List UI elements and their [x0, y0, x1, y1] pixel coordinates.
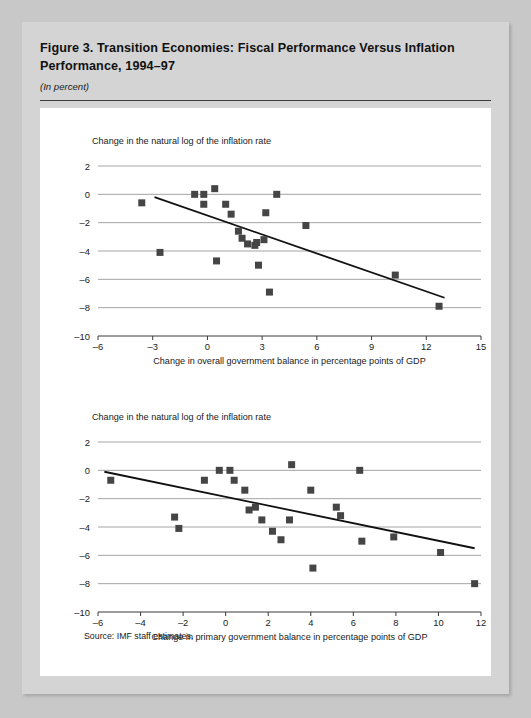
- chart-bottom-svg: Change in the natural log of the inflati…: [40, 404, 491, 664]
- data-point-marker: [216, 467, 223, 474]
- x-tick-label: –4: [135, 617, 145, 628]
- data-point-marker: [277, 536, 284, 543]
- data-point-marker: [244, 240, 251, 247]
- y-tick-label: –2: [80, 217, 90, 228]
- data-point-marker: [200, 201, 207, 208]
- data-point-marker: [286, 516, 293, 523]
- plot-panel: Change in the natural log of the inflati…: [40, 108, 491, 676]
- y-tick-label: 0: [85, 189, 90, 200]
- trendline: [155, 197, 445, 298]
- x-tick-label: 2: [266, 617, 271, 628]
- data-point-marker: [307, 487, 314, 494]
- data-point-marker: [213, 257, 220, 264]
- data-point-marker: [258, 516, 265, 523]
- data-point-marker: [356, 467, 363, 474]
- y-tick-label: –6: [80, 550, 90, 561]
- figure-card: Figure 3. Transition Economies: Fiscal P…: [22, 22, 509, 694]
- data-point-marker: [262, 209, 269, 216]
- data-point-marker: [358, 538, 365, 545]
- data-point-marker: [246, 507, 253, 514]
- y-tick-label: –2: [80, 493, 90, 504]
- x-tick-label: 4: [308, 617, 313, 628]
- data-point-marker: [235, 228, 242, 235]
- figure-inner: Figure 3. Transition Economies: Fiscal P…: [32, 32, 499, 684]
- data-point-marker: [269, 528, 276, 535]
- chart-top-overall-balance: Change in the natural log of the inflati…: [40, 128, 491, 388]
- figure-header: Figure 3. Transition Economies: Fiscal P…: [40, 40, 491, 92]
- y-axis-label: Change in the natural log of the inflati…: [92, 412, 271, 422]
- data-point-marker: [211, 185, 218, 192]
- x-tick-label: 10: [433, 617, 443, 628]
- y-tick-label: –8: [80, 302, 90, 313]
- data-point-marker: [266, 289, 273, 296]
- x-axis-label: Change in overall government balance in …: [153, 356, 425, 366]
- data-point-marker: [241, 487, 248, 494]
- x-tick-label: 3: [260, 341, 265, 352]
- chart-bottom-primary-balance: Change in the natural log of the inflati…: [40, 404, 491, 664]
- y-tick-label: –10: [74, 607, 90, 618]
- y-tick-label: –8: [80, 578, 90, 589]
- x-tick-label: 9: [369, 341, 374, 352]
- x-tick-label: –3: [147, 341, 157, 352]
- data-point-marker: [390, 533, 397, 540]
- y-axis-label: Change in the natural log of the inflati…: [92, 136, 271, 146]
- figure-title: Figure 3. Transition Economies: Fiscal P…: [40, 40, 491, 76]
- data-point-marker: [222, 201, 229, 208]
- data-point-marker: [288, 461, 295, 468]
- data-point-marker: [333, 504, 340, 511]
- y-tick-label: –4: [80, 522, 90, 533]
- data-point-marker: [253, 239, 260, 246]
- data-point-marker: [201, 477, 208, 484]
- figure-subtitle: (In percent): [40, 81, 491, 92]
- x-tick-label: 12: [476, 617, 486, 628]
- data-point-marker: [191, 191, 198, 198]
- data-point-marker: [226, 467, 233, 474]
- x-tick-label: –6: [93, 617, 103, 628]
- x-tick-label: 8: [393, 617, 398, 628]
- y-tick-label: –6: [80, 274, 90, 285]
- x-tick-label: –6: [93, 341, 103, 352]
- y-tick-label: 0: [85, 465, 90, 476]
- data-point-marker: [231, 477, 238, 484]
- data-point-marker: [138, 199, 145, 206]
- y-tick-label: 2: [85, 437, 90, 448]
- data-point-marker: [157, 249, 164, 256]
- data-point-marker: [273, 191, 280, 198]
- source-note: Source: IMF staff estimates.: [84, 631, 193, 641]
- x-tick-label: 6: [314, 341, 319, 352]
- trendline: [104, 472, 474, 549]
- data-point-marker: [200, 191, 207, 198]
- x-tick-label: 0: [223, 617, 228, 628]
- data-point-marker: [437, 549, 444, 556]
- data-point-marker: [260, 236, 267, 243]
- data-point-marker: [309, 565, 316, 572]
- data-point-marker: [175, 525, 182, 532]
- y-tick-label: –4: [80, 246, 90, 257]
- data-point-marker: [302, 222, 309, 229]
- x-tick-label: 6: [351, 617, 356, 628]
- x-tick-label: 0: [205, 341, 210, 352]
- data-point-marker: [252, 504, 259, 511]
- data-point-marker: [392, 272, 399, 279]
- data-point-marker: [228, 211, 235, 218]
- data-point-marker: [255, 262, 262, 269]
- y-tick-label: –10: [74, 331, 90, 342]
- title-divider: [40, 100, 491, 101]
- data-point-marker: [436, 303, 443, 310]
- x-tick-label: 12: [421, 341, 431, 352]
- y-tick-label: 2: [85, 161, 90, 172]
- x-tick-label: 15: [476, 341, 486, 352]
- data-point-marker: [471, 580, 478, 587]
- x-tick-label: –2: [178, 617, 188, 628]
- chart-top-svg: Change in the natural log of the inflati…: [40, 128, 491, 388]
- data-point-marker: [171, 514, 178, 521]
- data-point-marker: [107, 477, 114, 484]
- data-point-marker: [337, 512, 344, 519]
